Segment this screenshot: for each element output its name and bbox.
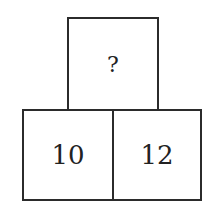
- bottom-right-box: 12: [112, 109, 202, 201]
- unknown-value: ?: [107, 52, 119, 77]
- bottom-left-value: 10: [51, 140, 84, 170]
- bottom-left-box: 10: [22, 109, 114, 201]
- top-box-unknown: ?: [67, 17, 159, 111]
- bottom-right-value: 12: [140, 140, 173, 170]
